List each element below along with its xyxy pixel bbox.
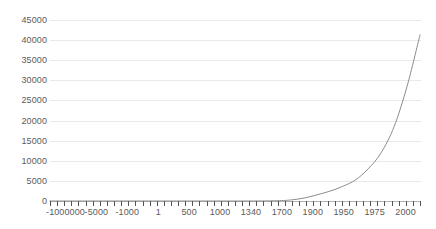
- x-axis-tick-label: 1: [156, 207, 161, 218]
- x-axis-tick-mark: [377, 201, 378, 206]
- y-axis-tick-label: 0: [0, 196, 47, 206]
- x-axis-tick-mark: [128, 201, 129, 206]
- x-axis-tick-label: 1900: [303, 207, 323, 218]
- x-axis-tick-mark: [93, 201, 94, 206]
- x-axis-tick-mark: [78, 201, 79, 206]
- x-axis-tick-mark: [313, 201, 314, 206]
- x-axis-tick-mark: [392, 201, 393, 206]
- y-axis-tick-label: 10000: [0, 156, 47, 166]
- x-axis-tick-mark: [292, 201, 293, 206]
- x-axis-tick-label: 1975: [364, 207, 384, 218]
- x-axis-tick-mark: [320, 201, 321, 206]
- x-axis-tick-mark: [356, 201, 357, 206]
- x-axis-tick-mark: [285, 201, 286, 206]
- x-axis-tick-mark: [71, 201, 72, 206]
- x-axis-tick-label: -1000000: [46, 207, 85, 218]
- y-axis-tick-label: 20000: [0, 116, 47, 126]
- x-axis-tick-mark: [192, 201, 193, 206]
- x-axis-tick-mark: [256, 201, 257, 206]
- x-axis-tick-mark: [271, 201, 272, 206]
- x-axis-tick-mark: [278, 201, 279, 206]
- x-axis-tick-mark: [399, 201, 400, 206]
- x-axis-tick-mark: [164, 201, 165, 206]
- x-axis-tick-label: 1950: [333, 207, 353, 218]
- x-axis-tick-label: 500: [181, 207, 196, 218]
- x-axis-tick-mark: [221, 201, 222, 206]
- x-axis-tick-mark: [57, 201, 58, 206]
- x-axis-tick-label: -1000: [116, 207, 140, 218]
- series-plot: [50, 20, 421, 202]
- x-axis-tick-mark: [86, 201, 87, 206]
- x-axis-tick-mark: [328, 201, 329, 206]
- x-axis-tick-mark: [100, 201, 101, 206]
- y-axis-tick-label: 40000: [0, 35, 47, 45]
- y-axis-tick-label: 35000: [0, 55, 47, 65]
- x-axis-tick-mark: [185, 201, 186, 206]
- x-axis-tick-label: 1340: [241, 207, 261, 218]
- x-axis-tick-label: -5000: [85, 207, 109, 218]
- x-axis-tick-label: 1700: [272, 207, 292, 218]
- x-axis-tick-mark: [384, 201, 385, 206]
- x-axis-tick-mark: [299, 201, 300, 206]
- series-line-value: [50, 35, 420, 201]
- x-axis-tick-mark: [306, 201, 307, 206]
- x-axis-tick-mark: [121, 201, 122, 206]
- y-axis-tick-label: 30000: [0, 75, 47, 85]
- x-axis-tick-mark: [178, 201, 179, 206]
- x-axis-tick-mark: [370, 201, 371, 206]
- x-axis-tick-mark: [363, 201, 364, 206]
- y-axis-tick-label: 45000: [0, 15, 47, 25]
- x-axis-tick-mark: [349, 201, 350, 206]
- x-axis-tick-mark: [335, 201, 336, 206]
- x-axis-tick-mark: [406, 201, 407, 206]
- y-axis-tick-label: 15000: [0, 136, 47, 146]
- y-axis-tick-label: 25000: [0, 95, 47, 105]
- x-axis-tick-mark: [50, 201, 51, 206]
- x-axis-tick-mark: [150, 201, 151, 206]
- x-axis-tick-mark: [199, 201, 200, 206]
- x-axis-tick-mark: [235, 201, 236, 206]
- y-axis-tick-label: 5000: [0, 176, 47, 186]
- x-axis-tick-mark: [228, 201, 229, 206]
- x-axis-tick-mark: [207, 201, 208, 206]
- chart-container: 4500040000350003000025000200001500010000…: [0, 0, 436, 229]
- x-axis-tick-mark: [171, 201, 172, 206]
- x-axis-tick-mark: [413, 201, 414, 206]
- x-axis-tick-label: 2000: [395, 207, 415, 218]
- x-axis-tick-mark: [249, 201, 250, 206]
- x-axis-tick-mark: [342, 201, 343, 206]
- x-axis-tick-mark: [242, 201, 243, 206]
- x-axis-tick-mark: [157, 201, 158, 206]
- x-axis-tick-mark: [114, 201, 115, 206]
- x-axis-tick-mark: [107, 201, 108, 206]
- x-axis-tick-mark: [420, 201, 421, 206]
- x-axis-tick-mark: [143, 201, 144, 206]
- x-axis-tick-mark: [214, 201, 215, 206]
- x-axis-tick-mark: [64, 201, 65, 206]
- x-axis-tick-label: 1000: [210, 207, 230, 218]
- x-axis-tick-mark: [135, 201, 136, 206]
- x-axis-tick-mark: [263, 201, 264, 206]
